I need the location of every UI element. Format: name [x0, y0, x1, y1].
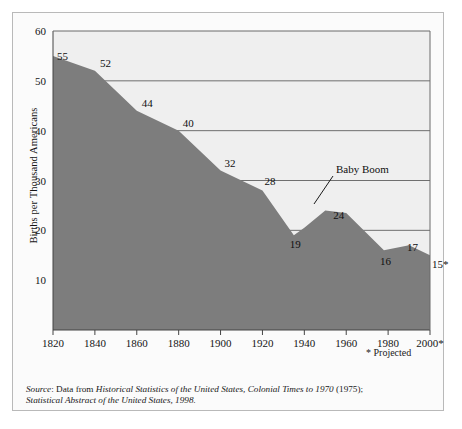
source-note: Source: Data from Historical Statistics … — [26, 384, 426, 406]
x-tick-label-1900: 1900 — [210, 337, 233, 349]
x-tick-label-1940: 1940 — [293, 337, 316, 349]
source-title-2: Statistical Abstract of the United State… — [26, 395, 196, 405]
figure-birth-rate-chart: 102030405060 182018401860188019001920194… — [0, 0, 462, 429]
source-label: Source — [26, 384, 51, 394]
birth-rate-area-chart: 102030405060 182018401860188019001920194… — [0, 0, 462, 429]
x-tick-label-1880: 1880 — [168, 337, 191, 349]
point-label-1820: 55 — [57, 50, 69, 62]
x-tick-label-1820: 1820 — [42, 337, 65, 349]
source-text-c: (1975); — [334, 384, 363, 394]
point-label-1978: 16 — [380, 255, 392, 267]
projected-footnote: * Projected — [366, 347, 411, 358]
x-tick-label-1920: 1920 — [251, 337, 274, 349]
x-axis-ticks — [53, 330, 430, 335]
point-label-2000: 15* — [432, 258, 449, 270]
point-label-1990: 17 — [407, 241, 419, 253]
y-tick-label-60: 60 — [35, 25, 47, 37]
x-tick-label-2000: 2000* — [416, 337, 444, 349]
annotation-label: Baby Boom — [336, 163, 389, 175]
x-tick-label-1840: 1840 — [84, 337, 107, 349]
y-axis-title: Births per Thousand Americans — [28, 66, 39, 286]
source-text-a: : Data from — [51, 384, 96, 394]
point-label-1900: 32 — [225, 157, 236, 169]
x-tick-label-1960: 1960 — [335, 337, 358, 349]
point-label-1860: 44 — [142, 97, 154, 109]
x-tick-label-1860: 1860 — [126, 337, 149, 349]
point-label-1950: 24 — [333, 209, 345, 221]
point-label-1935: 19 — [290, 238, 302, 250]
source-title-1: Historical Statistics of the United Stat… — [96, 384, 334, 394]
point-label-1920: 28 — [264, 175, 276, 187]
point-label-1880: 40 — [183, 117, 195, 129]
point-label-1840: 52 — [100, 57, 111, 69]
